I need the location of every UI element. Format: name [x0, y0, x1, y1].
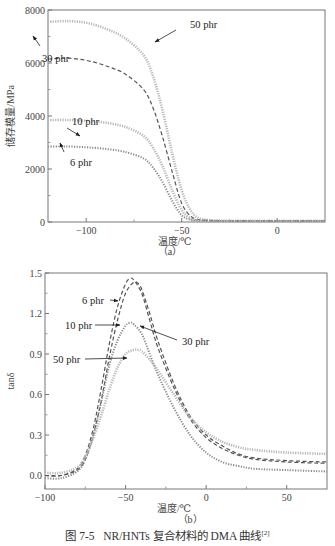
- annotation-label: 6 phr: [82, 295, 104, 306]
- subfigure-label-b: （b）: [160, 511, 220, 526]
- series-line-10-phr: [48, 120, 325, 221]
- chart-a: 02000400060008000−100−500温度/℃储存模量/MPa50 …: [4, 5, 325, 248]
- subfigure-label-a: （a）: [140, 243, 200, 258]
- x-tick-label: 0: [204, 492, 209, 503]
- y-tick-label: 1.5: [30, 268, 43, 279]
- x-tick-label: −50: [174, 225, 190, 236]
- y-tick-label: 0: [40, 217, 45, 228]
- annotation-arrow: [155, 30, 176, 42]
- caption-text: NR/HNTs 复合材料的 DMA 曲线: [103, 530, 261, 542]
- annotation-arrow: [110, 300, 118, 301]
- annotation-arrow: [85, 358, 127, 359]
- dma-figure: 02000400060008000−100−500温度/℃储存模量/MPa50 …: [0, 0, 335, 546]
- y-tick-label: 0.9: [30, 349, 43, 360]
- annotation-label: 50 phr: [190, 19, 218, 30]
- x-tick-label: 50: [282, 492, 292, 503]
- y-tick-label: 1.2: [30, 308, 43, 319]
- annotation-arrow: [60, 143, 64, 152]
- series-line-10-phr: [45, 282, 327, 476]
- x-tick-label: −100: [35, 492, 56, 503]
- y-tick-label: 2000: [25, 164, 45, 175]
- figure-caption: 图 7-5 NR/HNTs 复合材料的 DMA 曲线[2]: [0, 527, 335, 543]
- annotation-label: 30 phr: [182, 336, 210, 347]
- y-tick-label: 0.6: [30, 389, 43, 400]
- y-tick-label: 0.0: [30, 470, 43, 481]
- y-tick-label: 4000: [25, 111, 45, 122]
- chart-b: 0.00.30.60.91.21.5−100−50050温度/℃tanδ6 ph…: [5, 268, 327, 515]
- series-line-50-phr: [45, 350, 327, 474]
- annotation-label: 6 phr: [70, 157, 92, 168]
- caption-ref: [2]: [261, 529, 269, 537]
- annotation-arrow: [33, 36, 40, 46]
- series-line-30-phr: [48, 58, 325, 221]
- y-tick-label: 0.3: [30, 430, 43, 441]
- y-axis-title: tanδ: [5, 372, 16, 389]
- annotation-label: 10 phr: [72, 116, 100, 127]
- series-line-6-phr: [45, 278, 327, 476]
- annotation-arrow: [140, 326, 177, 340]
- annotation-label: 30 phr: [42, 53, 70, 64]
- annotation-arrow: [67, 128, 80, 136]
- caption-prefix: 图 7-5: [65, 530, 94, 542]
- y-axis-title: 储存模量/MPa: [4, 85, 16, 147]
- x-tick-label: −50: [118, 492, 134, 503]
- x-tick-label: −100: [76, 225, 97, 236]
- annotation-label: 10 phr: [65, 320, 93, 331]
- annotation-label: 50 phr: [53, 354, 81, 365]
- x-tick-label: 0: [275, 225, 280, 236]
- y-tick-label: 8000: [25, 5, 45, 16]
